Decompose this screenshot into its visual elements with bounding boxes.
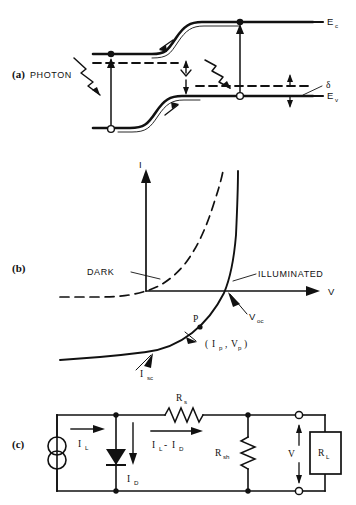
voltage-arrowhead-down [296,475,302,484]
ev-label-subscript: v [335,96,339,103]
net-current-label-group: I L - I D [152,440,184,452]
delta-arrowhead-upper [287,74,293,82]
p-point-label: P [193,314,198,324]
band-diagram-panel: PHOTON E c E v δ [0,0,356,155]
diode-current-arrowhead [129,453,137,465]
junction-node-bottom-left [113,488,118,493]
electron-dot-left [108,51,115,58]
generation-arrowhead-right [236,24,244,34]
net-current-subscript-second: D [179,445,184,452]
voc-arrowhead [228,292,240,307]
split-arrowhead-up [183,60,189,68]
photocurrent-label: I [78,439,81,449]
delta-arrowhead-lower [287,100,293,108]
p-point-dot [197,324,202,329]
net-current-label-first: I [152,440,155,450]
iv-y-axis-label: I [139,159,142,170]
series-resistance-label-subscript: s [184,398,187,405]
diode-triangle [106,449,126,465]
shunt-resistance-label-group: R sh [215,448,230,460]
conduction-band-thin-line [152,26,240,58]
photocurrent-label-group: I L [78,439,89,451]
delta-leader-line [303,86,322,95]
voltage-arrowhead-up [296,424,302,433]
iv-x-axis-label: V [328,286,335,297]
dark-curve [60,171,223,297]
illuminated-leader-line [233,274,256,281]
coord-close-paren: ) [244,339,247,350]
photon-arrowhead-right [222,81,231,89]
junction-node-bottom-shunt [245,488,250,493]
photon-arrowhead-left [92,87,100,95]
voltage-label: V [288,449,295,459]
photocurrent-arrowhead [93,425,105,433]
figure-root: (a) (b) (c) [0,0,356,505]
diode-current-label-group: I D [127,474,139,486]
photocurrent-label-subscript: L [85,444,89,451]
ev-label: E [327,90,333,101]
voc-label: V [249,311,256,322]
series-resistance-label-group: R s [176,393,187,405]
net-current-arrowhead [191,427,203,435]
terminal-bottom-open-circle [295,487,302,494]
net-current-subscript-first: L [159,445,163,452]
shunt-resistance-label-subscript: sh [223,453,230,460]
ec-label: E [327,16,333,27]
iv-axis-x-arrowhead [306,286,320,296]
diode-current-label: I [127,474,130,484]
series-resistance-label: R [176,393,183,403]
photon-label: PHOTON [30,70,72,80]
dark-curve-label: DARK [87,267,114,277]
iv-curve-panel: I V DARK ILLUMINATED V oc I sc P ( I p ,… [0,155,356,385]
delta-label: δ [326,80,331,90]
junction-node-top-shunt [245,412,250,417]
terminal-top-open-circle [295,411,302,418]
illuminated-curve-label: ILLUMINATED [258,269,323,279]
coord-comma: , [225,339,227,349]
iv-axis-y-arrowhead [141,169,151,183]
valence-band-edge [93,96,313,128]
split-arrowhead-down [183,87,189,95]
shunt-resistor-zigzag [241,437,255,469]
electron-dot-right [237,19,244,26]
net-current-minus-sign: - [164,440,167,450]
load-resistance-label: R [318,448,325,458]
equivalent-circuit-panel: I L I D R s I L - I D R sh V R L [0,385,356,505]
conduction-band-edge [93,22,313,54]
shunt-resistance-label: R [215,448,222,458]
hole-circle-left [108,126,115,133]
coord-open-paren: ( [205,339,208,350]
p-point-coordinates: ( I p , V p ) [205,339,247,351]
coord-voltage-symbol: V [231,339,238,349]
isc-label-subscript: sc [147,374,153,381]
ec-label-subscript: c [335,22,338,29]
hole-circle-right [237,93,244,100]
voc-label-subscript: oc [257,317,264,324]
illuminated-curve [60,171,238,360]
series-resistor-zigzag [165,408,203,422]
isc-label: I [140,369,143,379]
coord-current-subscript: p [219,344,223,351]
diode-current-label-subscript: D [134,479,139,486]
junction-node-top-left [113,412,118,417]
coord-voltage-subscript: p [238,344,242,351]
net-current-label-second: I [172,440,175,450]
hole-drift-arrow [165,105,178,115]
coord-current-symbol: I [212,339,215,349]
load-resistance-label-subscript: L [326,453,330,460]
